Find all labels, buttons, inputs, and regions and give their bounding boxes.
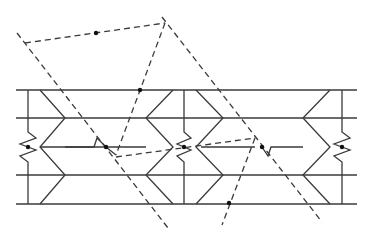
diagram-canvas bbox=[0, 0, 367, 236]
node-apex-rail-cross bbox=[138, 88, 142, 92]
middle-rail-segment bbox=[262, 147, 303, 156]
dashed-left-diagonal bbox=[17, 33, 168, 228]
node-left-kink-node bbox=[104, 145, 108, 149]
dashed-right-diagonal bbox=[162, 17, 322, 222]
mechanism-diagram bbox=[0, 0, 367, 236]
node-center-spring-node bbox=[182, 145, 186, 149]
node-left-spring-node bbox=[26, 145, 30, 149]
node-top-link-mid bbox=[94, 31, 98, 35]
dashed-right-apex-down bbox=[222, 138, 255, 225]
dashed-construction-lines bbox=[17, 17, 322, 228]
chevron-truss bbox=[146, 90, 173, 204]
node-bottom-rail-node bbox=[227, 201, 231, 205]
node-right-kink-node bbox=[260, 145, 264, 149]
node-right-spring-node bbox=[340, 145, 344, 149]
chevron-truss bbox=[303, 90, 330, 204]
